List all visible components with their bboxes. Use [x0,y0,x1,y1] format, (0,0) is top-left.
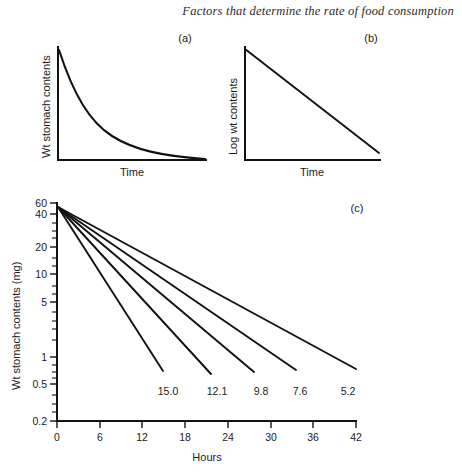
panel-c-y-tick-labels: 60 40 20 10 5 1 0.5 0.2 [32,197,47,427]
x-tick-label-6: 6 [97,431,103,443]
panel-c-label: (c) [351,202,364,214]
panel-b-decline-line [245,49,379,153]
x-tick-label-42: 42 [350,431,362,443]
panel-b-y-axis-label: Log wt contents [227,77,239,155]
slope-label-9.8: 9.8 [254,385,269,397]
panel-c-chart: Wt stomach contents (mg) [0,190,462,473]
panel-a-axes [58,47,206,160]
panel-a-chart: Wt stomach contents Time (a) [28,30,228,180]
y-tick-label-20: 20 [35,241,47,253]
x-tick-label-36: 36 [307,431,319,443]
panel-c-y-axis-label: Wt stomach contents (mg) [10,262,22,390]
decay-line-7.6 [58,207,296,370]
slope-label-5.2: 5.2 [341,385,356,397]
panel-a-decay-curve [59,50,205,159]
y-tick-label-10: 10 [35,268,47,280]
slope-label-12.1: 12.1 [207,385,228,397]
panel-b-x-axis-label: Time [300,166,324,178]
decay-line-12.1 [58,207,211,374]
x-tick-label-30: 30 [265,431,277,443]
x-tick-label-0: 0 [54,431,60,443]
x-tick-label-18: 18 [179,431,191,443]
panel-c-y-ticks [50,203,57,421]
panel-c-data-lines [58,207,356,374]
panel-c-x-ticks [57,421,356,428]
x-tick-label-12: 12 [136,431,148,443]
panel-b-chart: Log wt contents Time (b) [215,30,415,180]
decay-line-9.8 [58,207,254,372]
slope-label-7.6: 7.6 [293,385,308,397]
panel-c-x-axis-label: Hours [192,451,222,463]
y-tick-label-0.2: 0.2 [32,415,47,427]
figure-title: Factors that determine the rate of food … [0,4,462,19]
x-tick-label-24: 24 [222,431,234,443]
y-tick-label-40: 40 [35,208,47,220]
y-tick-label-5: 5 [41,296,47,308]
slope-label-15.0: 15.0 [158,385,179,397]
panel-a-y-axis-label: Wt stomach contents [40,55,52,158]
y-tick-label-0.5: 0.5 [32,378,47,390]
y-tick-label-1: 1 [41,351,47,363]
panel-a-label: (a) [178,32,191,44]
panel-a-x-axis-label: Time [120,166,144,178]
panel-c-x-tick-labels: 0 6 12 18 24 30 36 42 [54,431,362,443]
panel-c-slope-labels: 15.0 12.1 9.8 7.6 5.2 [158,385,356,397]
decay-line-5.2 [58,207,356,369]
decay-line-15.0 [58,207,163,371]
figure-container: Factors that determine the rate of food … [0,0,462,473]
panel-b-label: (b) [364,32,377,44]
